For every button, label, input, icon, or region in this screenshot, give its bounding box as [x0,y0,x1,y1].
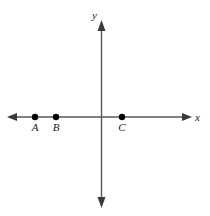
coordinate-axes-svg: y x A B C [0,0,210,216]
data-point-label-a: A [31,121,39,133]
data-point-label-b: B [53,121,60,133]
y-axis-label: y [91,9,97,21]
y-axis-bottom-arrowhead [98,197,106,208]
x-axis-label: x [194,111,200,123]
data-point-b [53,114,59,120]
coordinate-plane-figure: y x A B C [0,0,210,216]
data-point-c [119,114,125,120]
data-point-a [32,114,38,120]
x-axis-right-arrowhead [182,113,192,121]
data-point-label-c: C [118,121,126,133]
x-axis-left-arrowhead [7,113,17,121]
y-axis-top-arrowhead [98,20,106,31]
